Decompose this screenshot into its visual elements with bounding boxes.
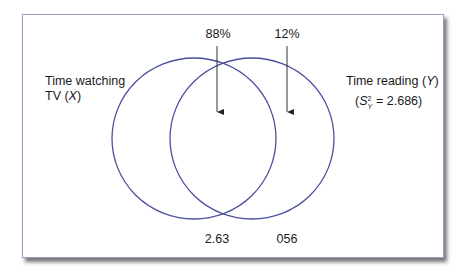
venn-diagram xyxy=(0,0,465,274)
x-circle-label: Time watching TV (X) xyxy=(45,74,125,104)
overlap-percent-label: 88% xyxy=(205,27,230,42)
y-variance-label: (S2Y = 2.686) xyxy=(355,94,422,109)
y-only-value-label: 056 xyxy=(277,232,298,247)
x-label-line2: TV (X) xyxy=(45,89,125,104)
y-circle-label: Time reading (Y) xyxy=(346,74,439,89)
overlap-value-label: 2.63 xyxy=(205,232,229,247)
y-label-line1: Time reading (Y) xyxy=(346,74,439,89)
y-only-percent-label: 12% xyxy=(274,27,299,42)
x-label-line1: Time watching xyxy=(45,74,125,89)
